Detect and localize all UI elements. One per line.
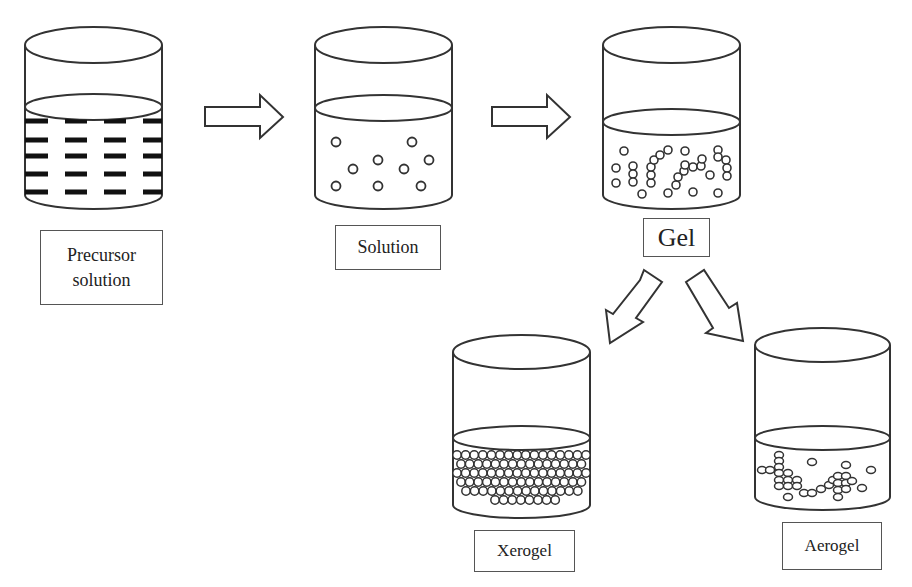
arrow-right-icon	[205, 95, 283, 138]
label-precursor-solution: Precursor solution	[40, 230, 163, 305]
beaker-aerogel	[755, 328, 890, 510]
label-solution: Solution	[335, 225, 441, 270]
label-xerogel: Xerogel	[474, 530, 575, 572]
arrow-down-left-icon	[606, 270, 662, 343]
gel-particles	[612, 146, 731, 198]
beaker-xerogel	[453, 335, 590, 518]
beaker-precursor-solution	[25, 27, 162, 209]
arrow-down-right-icon	[686, 270, 743, 341]
beaker-solution	[315, 27, 452, 209]
label-aerogel: Aerogel	[782, 522, 882, 570]
arrow-right-icon	[492, 95, 570, 138]
precursor-dashes	[25, 121, 162, 192]
label-gel: Gel	[643, 218, 710, 257]
solution-particles	[332, 138, 434, 191]
label-aerogel-text: Aerogel	[805, 535, 860, 558]
label-gel-text: Gel	[658, 220, 696, 255]
label-solution-text: Solution	[357, 235, 418, 259]
aerogel-particles	[758, 452, 876, 501]
xerogel-packed-particles	[453, 451, 590, 504]
beaker-gel	[603, 27, 740, 209]
label-precursor-line2: solution	[67, 268, 136, 292]
label-precursor-line1: Precursor	[67, 243, 136, 267]
label-xerogel-text: Xerogel	[497, 540, 552, 563]
